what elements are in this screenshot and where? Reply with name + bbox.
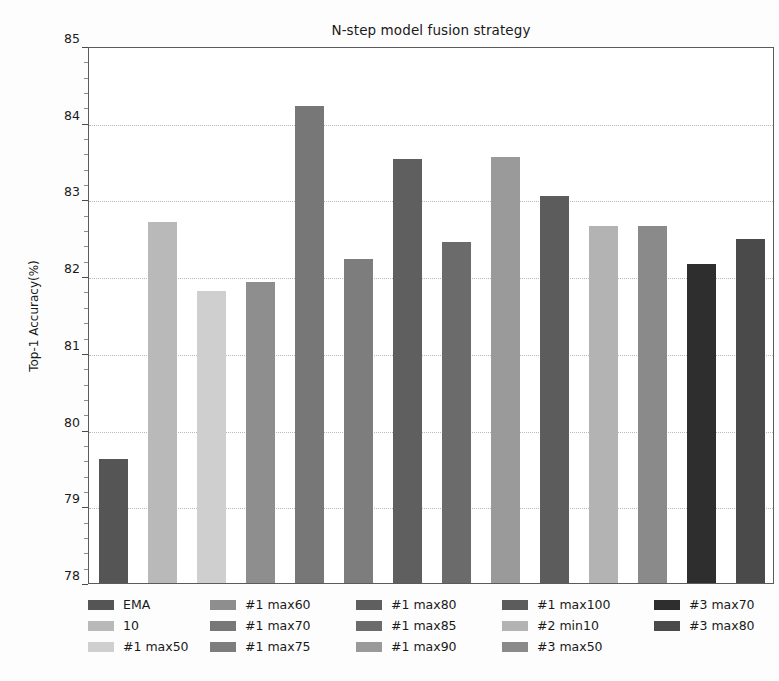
bars-layer [89,48,773,583]
legend-label: EMA [123,597,150,612]
legend-label: #1 max60 [245,597,311,612]
legend-column: #1 max80#1 max85#1 max90 [356,596,502,655]
legend-entry[interactable]: #3 max70 [654,596,774,613]
bar [197,291,226,583]
legend-label: #2 min10 [537,618,599,633]
legend-entry[interactable]: #3 max50 [502,638,654,655]
bar [99,459,128,583]
legend-entry[interactable]: #1 max85 [356,617,502,634]
legend-swatch-icon [654,621,680,631]
legend-swatch-icon [356,600,382,610]
legend-entry[interactable]: #1 max75 [210,638,356,655]
legend-column: #1 max60#1 max70#1 max75 [210,596,356,655]
bar [491,157,520,583]
legend-swatch-icon [654,600,680,610]
legend-label: #3 max70 [689,597,755,612]
legend-swatch-icon [88,621,114,631]
y-tick-label: 85 [44,31,80,46]
legend-entry[interactable]: #1 max70 [210,617,356,634]
bar [148,222,177,583]
legend-label: #3 max80 [689,618,755,633]
bar [246,282,275,583]
bar [589,226,618,583]
bar [295,106,324,583]
y-tick-label: 79 [44,491,80,506]
chart-figure: N-step model fusion strategy 78798081828… [0,0,779,681]
bar [736,239,765,583]
legend-column: #1 max100#2 min10#3 max50 [502,596,654,655]
legend-label: #1 max90 [391,639,457,654]
y-tick-label: 82 [44,261,80,276]
legend-label: 10 [123,618,139,633]
legend-label: #1 max50 [123,639,189,654]
bar [393,159,422,583]
legend-entry[interactable]: #1 max80 [356,596,502,613]
y-tick-label: 78 [44,568,80,583]
legend-entry[interactable]: EMA [88,596,210,613]
legend-column: EMA10#1 max50 [88,596,210,655]
legend-column: #3 max70#3 max80 [654,596,774,634]
legend-swatch-icon [356,621,382,631]
legend-swatch-icon [88,642,114,652]
legend-swatch-icon [210,600,236,610]
bar [442,242,471,583]
legend-label: #1 max70 [245,618,311,633]
legend-swatch-icon [88,600,114,610]
y-axis-label: Top-1 Accuracy(%) [27,260,41,372]
y-tick-label: 84 [44,107,80,122]
legend-swatch-icon [502,600,528,610]
legend-entry[interactable]: #1 max100 [502,596,654,613]
legend-label: #1 max75 [245,639,311,654]
legend-swatch-icon [356,642,382,652]
y-tick-label: 81 [44,337,80,352]
legend-label: #1 max85 [391,618,457,633]
legend-swatch-icon [502,621,528,631]
legend-entry[interactable]: #1 max60 [210,596,356,613]
legend-entry[interactable]: #1 max50 [88,638,210,655]
legend-entry[interactable]: #3 max80 [654,617,774,634]
legend-entry[interactable]: 10 [88,617,210,634]
legend-swatch-icon [210,621,236,631]
bar [540,196,569,583]
legend-entry[interactable]: #2 min10 [502,617,654,634]
y-tick-label: 80 [44,414,80,429]
legend-swatch-icon [210,642,236,652]
bar [344,259,373,584]
legend-label: #1 max100 [537,597,611,612]
bar [687,264,716,583]
y-tick-label: 83 [44,184,80,199]
legend-label: #3 max50 [537,639,603,654]
legend-label: #1 max80 [391,597,457,612]
legend-entry[interactable]: #1 max90 [356,638,502,655]
chart-legend: EMA10#1 max50#1 max60#1 max70#1 max75#1 … [88,596,774,674]
y-tick-mark [82,584,88,585]
bar [638,226,667,583]
legend-swatch-icon [502,642,528,652]
plot-area [88,47,774,584]
